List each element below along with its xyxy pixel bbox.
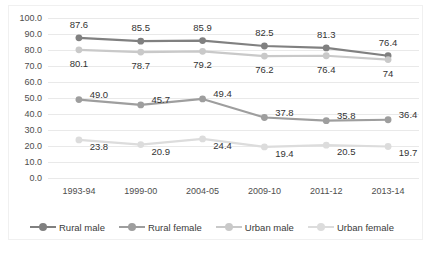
data-point-marker [137, 38, 144, 45]
data-point-marker [261, 53, 268, 60]
data-point-marker [323, 45, 330, 52]
legend-swatch-icon [216, 222, 242, 232]
data-point-label: 85.5 [132, 22, 151, 33]
data-point-marker [199, 136, 206, 143]
x-axis-tick-label: 1993-94 [62, 186, 95, 196]
data-point-label: 19.4 [275, 148, 294, 159]
legend-item-rural-male[interactable]: Rural male [30, 222, 105, 233]
data-point-label: 85.9 [193, 22, 212, 33]
y-axis-tick-label: 100.0 [2, 13, 42, 23]
data-point-label: 45.7 [152, 94, 171, 105]
data-point-label: 35.8 [337, 110, 356, 121]
data-point-label: 80.1 [70, 58, 89, 69]
data-point-label: 19.7 [399, 147, 418, 158]
data-point-marker [76, 137, 83, 144]
x-axis-tick-label: 2011-12 [310, 186, 342, 196]
data-point-label: 20.9 [152, 146, 171, 157]
chart-container: 87.685.585.982.581.376.449.045.749.437.8… [0, 0, 431, 256]
data-point-marker [261, 114, 268, 121]
data-point-label: 78.7 [132, 60, 151, 71]
data-point-marker [76, 96, 83, 103]
data-point-label: 20.5 [337, 146, 356, 157]
data-point-label: 76.4 [317, 64, 336, 75]
data-point-marker [76, 34, 83, 41]
y-axis-tick-label: 50.0 [2, 93, 42, 103]
legend-item-rural-female[interactable]: Rural female [119, 222, 202, 233]
data-point-marker [323, 142, 330, 149]
data-point-marker [199, 96, 206, 103]
data-point-marker [137, 101, 144, 108]
chart-legend: Rural maleRural femaleUrban maleUrban fe… [30, 219, 410, 235]
x-axis-tick-label: 1999-00 [124, 186, 157, 196]
data-point-label: 76.2 [255, 64, 274, 75]
data-point-label: 49.4 [213, 88, 232, 99]
data-point-label: 23.8 [90, 141, 109, 152]
legend-swatch-icon [119, 222, 145, 232]
data-point-marker [76, 46, 83, 53]
data-point-label: 37.8 [275, 107, 294, 118]
x-axis-tick-label: 2013-14 [372, 186, 405, 196]
y-axis-tick-label: 90.0 [2, 29, 42, 39]
data-point-label: 81.3 [317, 29, 336, 40]
data-point-label: 79.2 [193, 59, 212, 70]
data-point-label: 49.0 [90, 89, 109, 100]
legend-label: Rural female [148, 222, 202, 233]
y-axis-tick-label: 60.0 [2, 77, 42, 87]
legend-label: Urban female [337, 222, 394, 233]
data-point-label: 24.4 [213, 140, 232, 151]
data-point-marker [385, 116, 392, 123]
data-point-label: 82.5 [255, 27, 274, 38]
legend-label: Rural male [59, 222, 105, 233]
y-axis-tick-label: 0.0 [2, 173, 42, 183]
data-point-label: 36.4 [399, 109, 418, 120]
data-point-marker [261, 144, 268, 151]
y-axis-tick-label: 10.0 [2, 157, 42, 167]
x-axis-tick-label: 2009-10 [248, 186, 281, 196]
legend-swatch-icon [308, 222, 334, 232]
x-axis-tick-label: 2004-05 [186, 186, 219, 196]
y-axis-tick-label: 40.0 [2, 109, 42, 119]
legend-item-urban-male[interactable]: Urban male [216, 222, 294, 233]
data-point-marker [137, 49, 144, 56]
data-point-label: 76.4 [379, 37, 398, 48]
data-point-marker [199, 37, 206, 44]
legend-item-urban-female[interactable]: Urban female [308, 222, 394, 233]
data-point-marker [261, 43, 268, 50]
y-axis-tick-label: 30.0 [2, 125, 42, 135]
y-axis-tick-label: 20.0 [2, 141, 42, 151]
data-point-label: 74 [383, 68, 394, 79]
data-point-marker [323, 117, 330, 124]
y-axis-tick-label: 80.0 [2, 45, 42, 55]
gridline [48, 178, 419, 179]
data-point-marker [199, 48, 206, 55]
legend-swatch-icon [30, 222, 56, 232]
y-axis-tick-label: 70.0 [2, 61, 42, 71]
series-line [79, 50, 388, 60]
data-point-label: 87.6 [70, 19, 89, 30]
data-point-marker [137, 141, 144, 148]
legend-label: Urban male [245, 222, 294, 233]
data-point-marker [385, 56, 392, 63]
data-point-marker [323, 52, 330, 59]
data-point-marker [385, 143, 392, 150]
plot-area: 87.685.585.982.581.376.449.045.749.437.8… [48, 18, 419, 178]
